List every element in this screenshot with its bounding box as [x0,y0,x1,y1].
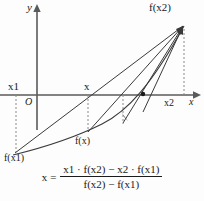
formula-denominator: f(x2) − f(x1) [81,177,143,190]
label-y-axis: y [27,2,32,13]
secant-chords [15,26,183,153]
label-fx: f(x) [75,136,90,146]
formula-equals: = [50,171,56,183]
formula-fraction: x1 · f(x2) − x2 · f(x1) f(x2) − f(x1) [60,163,162,190]
y-axis [33,4,40,130]
label-origin: O [25,97,32,107]
chord-3 [123,26,183,123]
chord-4 [143,26,183,112]
chord-2 [88,26,183,132]
label-x2: x2 [164,98,174,108]
label-x-axis: x [189,97,193,107]
label-x1: x1 [8,81,19,92]
formula-numerator: x1 · f(x2) − x2 · f(x1) [60,163,162,177]
point-next-iterate [141,92,145,96]
formula-lhs: x [42,171,48,183]
formula-block: x = x1 · f(x2) − x2 · f(x1) f(x2) − f(x1… [0,163,204,190]
label-fx1: f(x1) [4,153,24,163]
diagram-page: f(x2) y x1 x O x2 x f(x) f(x1) x = x1 · … [0,0,204,201]
chord-1 [15,26,183,153]
marked-points [141,92,145,96]
label-x: x [84,81,90,92]
label-fx2: f(x2) [149,2,171,13]
